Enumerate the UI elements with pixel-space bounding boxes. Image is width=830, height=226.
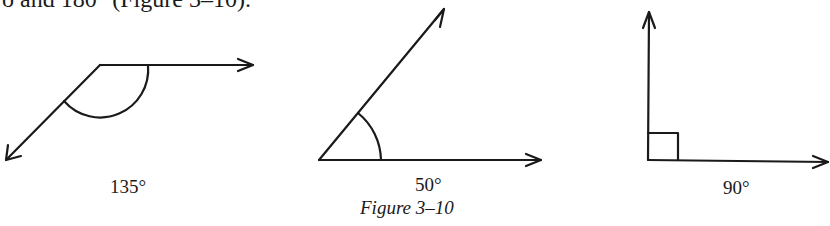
angle-label-135: 135°: [110, 176, 146, 198]
acute-angle-diagram: [319, 9, 541, 166]
figure-caption: Figure 3–10: [360, 197, 454, 219]
angle-label-90: 90°: [723, 177, 750, 199]
angle-label-50: 50°: [415, 174, 442, 196]
obtuse-angle-diagram: [6, 59, 253, 160]
right-angle-diagram: [643, 12, 828, 168]
